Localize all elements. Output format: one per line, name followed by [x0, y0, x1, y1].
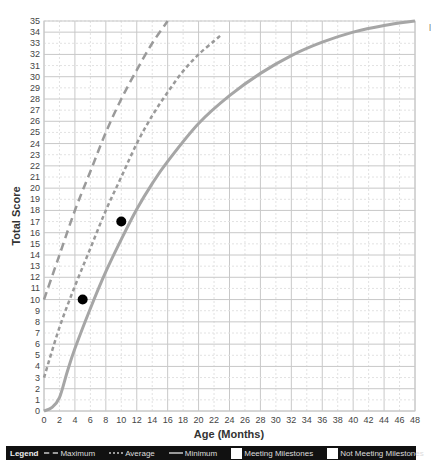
x-axis-title: Age (Months) — [194, 428, 265, 440]
x-tick-label: 6 — [88, 415, 93, 425]
y-tick-label: 16 — [30, 228, 40, 238]
y-tick-label: 8 — [35, 317, 40, 327]
y-tick-label: 33 — [30, 38, 40, 48]
x-tick-label: 2 — [57, 415, 62, 425]
x-tick-label: 28 — [255, 415, 265, 425]
y-tick-label: 35 — [30, 16, 40, 26]
y-tick-label: 28 — [30, 94, 40, 104]
y-tick-label: 34 — [30, 27, 40, 37]
x-axis-ticks: 0246810121416182022242628303234363840424… — [41, 415, 420, 425]
x-tick-label: 4 — [72, 415, 77, 425]
x-tick-label: 24 — [224, 415, 234, 425]
y-tick-label: 15 — [30, 239, 40, 249]
x-tick-label: 48 — [410, 415, 420, 425]
y-tick-label: 0 — [35, 406, 40, 416]
x-tick-label: 18 — [178, 415, 188, 425]
y-tick-label: 30 — [30, 72, 40, 82]
milestone-marker — [78, 295, 88, 305]
y-tick-label: 21 — [30, 172, 40, 182]
y-tick-label: 32 — [30, 49, 40, 59]
y-tick-label: 13 — [30, 261, 40, 271]
x-tick-label: 20 — [194, 415, 204, 425]
y-tick-label: 10 — [30, 295, 40, 305]
x-tick-label: 44 — [379, 415, 389, 425]
x-tick-label: 46 — [395, 415, 405, 425]
grid — [44, 21, 415, 411]
legend-item-minimum: Minimum — [169, 449, 217, 458]
x-tick-label: 16 — [163, 415, 173, 425]
x-tick-label: 26 — [240, 415, 250, 425]
legend-item-maximum: Maximum — [44, 449, 95, 458]
y-tick-label: 20 — [30, 183, 40, 193]
y-tick-label: 22 — [30, 161, 40, 171]
legend-item-average: Average — [109, 449, 155, 458]
x-tick-label: 30 — [271, 415, 281, 425]
series-average-line — [44, 34, 222, 377]
y-tick-label: 5 — [35, 350, 40, 360]
y-tick-label: 2 — [35, 384, 40, 394]
y-tick-label: 26 — [30, 116, 40, 126]
milestone-marker — [116, 217, 126, 227]
white-box-icon — [231, 448, 242, 459]
y-tick-label: 29 — [30, 83, 40, 93]
x-tick-label: 38 — [333, 415, 343, 425]
x-tick-label: 42 — [364, 415, 374, 425]
growth-chart: 0123456789101112131415161718192021222324… — [0, 0, 433, 446]
y-tick-label: 11 — [31, 283, 40, 293]
x-tick-label: 8 — [103, 415, 108, 425]
y-axis-title: Total Score — [10, 186, 22, 245]
y-tick-label: 3 — [35, 373, 40, 383]
x-tick-label: 36 — [317, 415, 327, 425]
y-tick-label: 31 — [30, 61, 40, 71]
y-tick-label: 12 — [30, 272, 40, 282]
y-tick-label: 25 — [30, 127, 40, 137]
long-dash-line-icon — [44, 452, 58, 454]
x-tick-label: 32 — [286, 415, 296, 425]
legend-item-not-meeting-milestones: Not Meeting Milestones — [327, 448, 424, 459]
legend-item-meeting-milestones: Meeting Milestones — [231, 448, 313, 459]
x-tick-label: 12 — [132, 415, 142, 425]
y-tick-label: 27 — [30, 105, 40, 115]
x-tick-label: 34 — [302, 415, 312, 425]
x-tick-label: 22 — [209, 415, 219, 425]
x-tick-label: 10 — [116, 415, 126, 425]
x-tick-label: 0 — [41, 415, 46, 425]
y-tick-label: 9 — [35, 306, 40, 316]
y-tick-label: 14 — [30, 250, 40, 260]
x-tick-label: 40 — [348, 415, 358, 425]
y-tick-label: 1 — [35, 395, 40, 405]
y-tick-label: 4 — [35, 361, 40, 371]
x-tick-label: 14 — [147, 415, 157, 425]
y-tick-label: 7 — [35, 328, 40, 338]
short-dash-line-icon — [109, 452, 123, 454]
cropped-text-fragment: | — [429, 22, 433, 31]
solid-line-icon — [169, 452, 183, 454]
y-tick-label: 19 — [30, 194, 40, 204]
legend-title: Legend — [10, 449, 38, 458]
y-axis-ticks: 0123456789101112131415161718192021222324… — [30, 16, 40, 416]
y-tick-label: 23 — [30, 150, 40, 160]
y-tick-label: 6 — [35, 339, 40, 349]
white-box-icon — [327, 448, 338, 459]
y-tick-label: 18 — [30, 205, 40, 215]
y-tick-label: 24 — [30, 139, 40, 149]
y-tick-label: 17 — [30, 217, 40, 227]
legend-bar: Legend Maximum Average Minimum Meeting M… — [6, 446, 416, 460]
